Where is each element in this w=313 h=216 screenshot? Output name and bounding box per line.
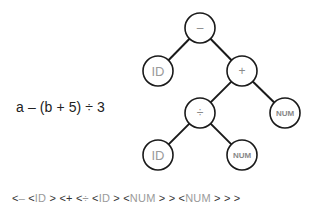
tree-edge [211,124,232,145]
tree-edges [168,39,274,145]
node-label: – [197,21,204,35]
node-label: NUM [233,151,252,160]
serial-bracket: > > [156,192,179,204]
tree-node-plus: + [227,56,257,86]
tree-node-id2: ID [143,140,173,170]
prefix-serialization: <– <ID > <+ <÷ <ID > <NUM > > <NUM > > > [12,192,240,204]
syntax-tree-diagram: –ID+÷NUMIDNUM [0,0,313,216]
node-label: ID [152,148,165,163]
tree-node-num2: NUM [227,140,257,170]
tree-edge [210,39,231,61]
tree-node-div: ÷ [185,98,215,128]
serial-bracket: < [123,192,130,204]
node-label: ID [152,64,165,79]
tree-edge [253,81,275,102]
tree-node-root: – [185,13,215,43]
tree-edge [211,82,232,103]
serial-bracket: > [46,192,59,204]
serial-bracket: > [110,192,123,204]
serial-token: ÷ [83,192,89,204]
serial-token: ID [99,192,110,204]
serial-bracket: < [12,192,19,204]
tree-edge [168,39,189,61]
node-label: NUM [276,109,295,118]
serial-token: – [19,192,25,204]
serial-token: ID [35,192,46,204]
node-label: ÷ [197,106,204,120]
serial-bracket: < [92,192,99,204]
node-label: + [238,64,245,78]
serial-token: NUM [130,192,156,204]
tree-edge [169,124,190,145]
serial-bracket: > > > [211,192,241,204]
tree-node-id1: ID [143,56,173,86]
serial-bracket: < [76,192,83,204]
serial-token: NUM [185,192,211,204]
tree-node-num1: NUM [270,98,300,128]
serial-bracket: < [28,192,35,204]
serial-bracket: + [66,192,73,204]
